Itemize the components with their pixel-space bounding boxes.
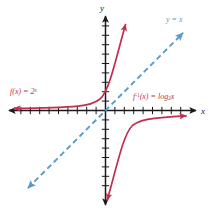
logarithm-label-rest: (x) = log [140,92,169,101]
x-axis-label: x [201,107,205,116]
logarithm-label-argument: x [171,92,175,101]
graph-figure: y x f(x) = 2x f-1(x) = log2x y = x [0,0,211,215]
y-axis-label: y [100,4,104,13]
exponential-label-base: f(x) = 2 [10,87,35,96]
coordinate-plane-svg [0,0,211,215]
exponential-label-exponent: x [35,87,37,93]
identity-line-label: y = x [166,16,183,24]
logarithm-function-label: f-1(x) = log2x [133,93,174,101]
logarithm-curve [107,116,186,200]
exponential-function-label: f(x) = 2x [10,88,37,96]
